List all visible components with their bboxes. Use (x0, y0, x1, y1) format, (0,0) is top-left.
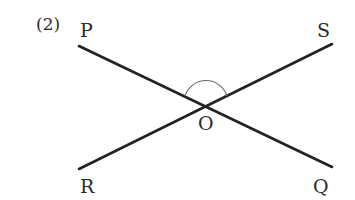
label-p: P (80, 19, 93, 41)
label-s: S (317, 19, 330, 41)
label-q: Q (313, 175, 329, 197)
label-r: R (80, 175, 95, 197)
label-o: O (198, 112, 214, 134)
intersecting-lines-diagram: (2) P S O R Q (0, 0, 355, 200)
problem-number: (2) (36, 14, 60, 34)
angle-arc-pos (185, 81, 227, 96)
